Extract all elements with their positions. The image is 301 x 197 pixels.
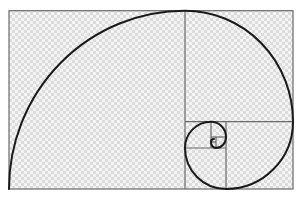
- checkered-background: [9, 11, 293, 189]
- golden-spiral-diagram: Golden ratio rectangle with Fibonacci sp…: [0, 0, 301, 197]
